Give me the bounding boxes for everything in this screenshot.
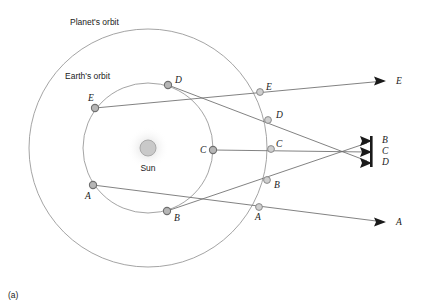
sight-line-e	[95, 81, 384, 108]
earth-position-a	[89, 181, 96, 188]
earth-label-e: E	[87, 93, 94, 103]
star-direction-label-a: A	[395, 217, 402, 227]
planet-position-a	[256, 204, 263, 211]
earth-position-e	[91, 104, 98, 111]
star-direction-label-e: E	[395, 76, 402, 86]
arrow-head-a	[374, 218, 386, 227]
earth-position-c	[209, 146, 216, 153]
earth-label-d: D	[174, 75, 182, 85]
planet-label-c: C	[276, 139, 283, 149]
arrow-head-e	[374, 77, 386, 86]
figure-caption: (a)	[8, 290, 18, 300]
earth-orbit-label: Earth's orbit	[65, 71, 111, 81]
star-direction-label-d: D	[381, 157, 389, 167]
planet-label-a: A	[254, 212, 261, 222]
planet-label-b: B	[274, 180, 280, 190]
star-direction-label-b: B	[382, 135, 388, 145]
planet-label-e: E	[265, 82, 272, 92]
retrograde-motion-diagram: Planet's orbit Earth's orbit Sun A B C D…	[0, 0, 421, 308]
earth-label-a: A	[84, 191, 91, 201]
planet-position-d	[265, 117, 272, 124]
sun-disc	[140, 140, 156, 156]
star-direction-label-c: C	[382, 146, 389, 156]
planet-position-e	[257, 89, 264, 96]
earth-position-d	[164, 81, 171, 88]
arrow-head-stem-bar	[370, 136, 373, 167]
earth-label-b: B	[174, 213, 180, 223]
planet-position-b	[264, 177, 271, 184]
earth-position-b	[163, 207, 170, 214]
planet-orbit-label: Planet's orbit	[70, 17, 120, 27]
sun-label: Sun	[140, 163, 155, 173]
planet-position-c	[268, 146, 275, 153]
earth-label-c: C	[200, 145, 207, 155]
figure-container: Planet's orbit Earth's orbit Sun A B C D…	[0, 0, 421, 308]
sight-line-a	[93, 185, 384, 222]
planet-label-d: D	[275, 110, 283, 120]
